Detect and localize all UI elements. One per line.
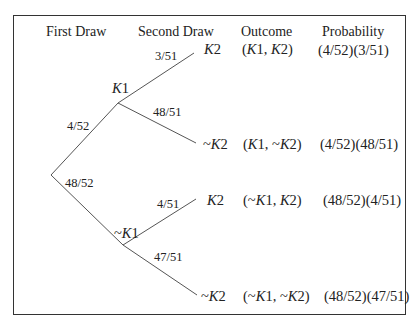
node-k1-not-k2: ~K2 (203, 137, 228, 152)
outcome-k1-not-k2: (K1, ~K2) (243, 137, 302, 152)
probability-not-k1-k2: (48/52)(4/51) (323, 193, 401, 208)
branch-prob-k1: 4/52 (67, 120, 89, 133)
outcome-not-k1-not-k2: (~K1, ~K2) (243, 289, 310, 304)
branch-prob-not-k1-k2: 4/51 (157, 198, 179, 211)
outcome-not-k1-k2: (~K1, K2) (243, 193, 302, 208)
node-not-k1-k2: K2 (207, 193, 224, 208)
branch-prob-k1-not-k2: 48/51 (153, 106, 181, 119)
branch-root-k1 (51, 103, 118, 175)
node-not-k1: ~K1 (114, 226, 139, 241)
branch-prob-k1-k2: 3/51 (155, 50, 177, 63)
probability-k1-not-k2: (4/52)(48/51) (320, 137, 398, 152)
probability-not-k1-not-k2: (48/52)(47/51) (324, 289, 409, 304)
header-outcome: Outcome (241, 25, 292, 39)
branch-prob-not-k1: 48/52 (65, 177, 93, 190)
header-first-draw: First Draw (46, 25, 106, 39)
node-k1-k2: K2 (204, 42, 221, 57)
node-not-k1-not-k2: ~K2 (201, 289, 226, 304)
header-probability: Probability (322, 25, 384, 39)
header-second-draw: Second Draw (138, 25, 214, 39)
branch-prob-not-k1-not-k2: 47/51 (154, 251, 182, 264)
probability-k1-k2: (4/52)(3/51) (318, 43, 389, 58)
outcome-k1-k2: (K1, K2) (242, 42, 293, 57)
node-k1: K1 (112, 81, 129, 96)
